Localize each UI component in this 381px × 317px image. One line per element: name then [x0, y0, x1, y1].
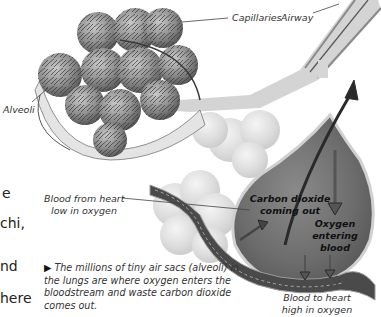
label-blood-from-heart: Blood from heart low in oxygen — [44, 193, 124, 217]
label-blood-to-heart-line1: Blood to heart — [272, 292, 362, 304]
caption-marker-icon: ▶ — [44, 262, 51, 273]
caption-text: The millions of tiny air sacs (alveoli) … — [44, 262, 239, 311]
label-co2-line1: Carbon dioxide — [245, 193, 335, 205]
label-carbon-dioxide: Carbon dioxide coming out — [245, 193, 335, 217]
label-capillaries: Capillaries — [232, 12, 282, 24]
label-airway: Airway — [281, 12, 313, 24]
label-oxygen-entering: Oxygen entering blood — [305, 218, 365, 254]
alveoli-cluster — [35, 8, 205, 160]
label-blood-from-heart-line1: Blood from heart — [44, 193, 124, 205]
label-blood-from-heart-line2: low in oxygen — [44, 205, 124, 217]
body-text-fragment: here — [0, 290, 32, 306]
body-text-fragment: e — [2, 185, 11, 201]
label-o2-line3: blood — [305, 242, 365, 254]
label-o2-line1: Oxygen — [305, 218, 365, 230]
label-o2-line2: entering — [305, 230, 365, 242]
figure-caption: ▶The millions of tiny air sacs (alveoli)… — [44, 262, 254, 312]
label-co2-line2: coming out — [245, 205, 335, 217]
body-text-fragment: chi, — [0, 215, 25, 231]
label-blood-to-heart: Blood to heart high in oxygen — [272, 292, 362, 316]
body-text-fragment: nd — [0, 258, 18, 274]
label-alveoli: Alveoli — [3, 104, 35, 116]
label-blood-to-heart-line2: high in oxygen — [272, 304, 362, 316]
